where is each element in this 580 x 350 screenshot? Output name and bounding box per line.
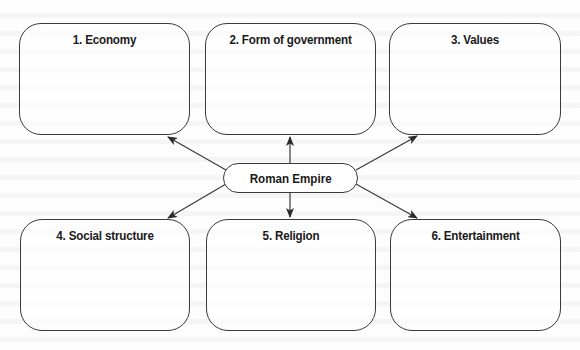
center-node-roman-empire: Roman Empire <box>223 163 358 193</box>
box-form-of-government-title: 2. Form of government <box>218 32 363 47</box>
box-values-title: 3. Values <box>402 32 548 47</box>
arrow-to-economy <box>168 137 226 170</box>
arrow-to-entertainment <box>356 184 417 218</box>
box-religion-title: 5. Religion <box>219 228 363 243</box>
box-economy-title: 1. Economy <box>32 32 177 47</box>
box-entertainment: 6. Entertainment <box>390 219 561 331</box>
box-religion: 5. Religion <box>206 219 376 331</box>
diagram-canvas: 1. Economy 2. Form of government 3. Valu… <box>0 0 580 350</box>
center-node-label: Roman Empire <box>250 171 332 186</box>
arrow-to-social-structure <box>168 184 226 218</box>
box-entertainment-title: 6. Entertainment <box>403 228 548 243</box>
box-social-structure: 4. Social structure <box>20 219 190 331</box>
box-economy: 1. Economy <box>19 23 190 135</box>
box-form-of-government: 2. Form of government <box>205 23 376 135</box>
box-values: 3. Values <box>389 23 561 135</box>
box-social-structure-title: 4. Social structure <box>33 228 177 243</box>
arrow-to-values <box>356 136 417 170</box>
